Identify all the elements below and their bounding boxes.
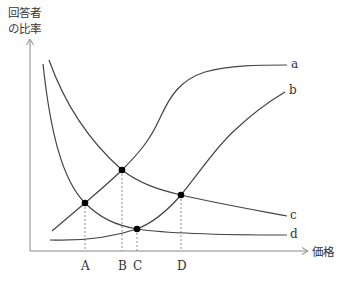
intersection-point-b [119, 167, 126, 174]
axes [27, 39, 309, 255]
x-tick-label-a: A [81, 259, 90, 273]
intersection-point-c [134, 226, 141, 233]
curve-label-b: b [289, 83, 297, 97]
x-tick-label-c: C [133, 259, 142, 273]
intersection-point-d [178, 192, 185, 199]
x-tick-label-d: D [177, 259, 187, 273]
curve-label-d: d [290, 227, 298, 241]
curve-c [49, 60, 287, 216]
x-axis-label: 価格 [312, 243, 334, 259]
curve-label-c: c [290, 208, 297, 222]
curve-b [50, 92, 285, 240]
curve-a [52, 65, 287, 231]
x-tick-label-b: B [118, 259, 127, 273]
intersection-point-a [82, 200, 89, 207]
curve-label-a: a [291, 57, 298, 71]
